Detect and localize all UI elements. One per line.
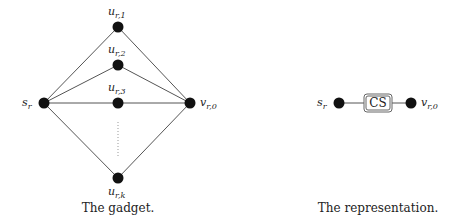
node-u-r3 <box>113 98 124 109</box>
edge-u1-v <box>118 27 190 103</box>
edge-s-u2 <box>44 65 118 103</box>
representation-caption: The representation. <box>318 201 438 215</box>
edge-u2-v <box>118 65 190 103</box>
edge-s-uk <box>44 103 118 178</box>
cs-box: CS <box>364 94 392 112</box>
label-v-r0: vr,0 <box>200 96 217 111</box>
label-u-r2: ur,2 <box>108 43 126 58</box>
edge-s-u1 <box>44 27 118 103</box>
label-s-r: sr <box>22 96 33 111</box>
rep-label-s-r: sr <box>317 96 328 111</box>
label-u-r3: ur,3 <box>108 81 126 96</box>
node-s-r <box>39 98 50 109</box>
cs-label: CS <box>369 96 386 110</box>
rep-label-v-r0: vr,0 <box>421 96 438 111</box>
gadget-caption: The gadget. <box>82 201 155 215</box>
edge-uk-v <box>118 103 190 178</box>
node-u-rk <box>113 173 124 184</box>
figure: ur,1 ur,2 ur,3 ur,k sr vr,0 The gadget. … <box>0 0 459 218</box>
node-u-r1 <box>113 22 124 33</box>
node-v-r0 <box>185 98 196 109</box>
rep-node-s-r <box>334 98 345 109</box>
label-u-rk: ur,k <box>108 185 126 200</box>
node-u-r2 <box>113 60 124 71</box>
rep-node-v-r0 <box>406 98 417 109</box>
label-u-r1: ur,1 <box>108 5 126 20</box>
